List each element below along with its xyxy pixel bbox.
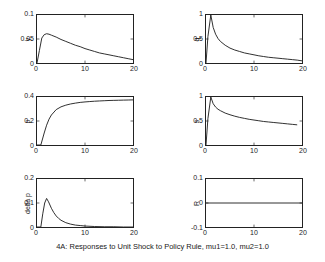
y-tick-label: 0 <box>199 199 203 206</box>
figure-caption: 4A: Responses to Unit Shock to Policy Ru… <box>0 242 325 252</box>
curve-p <box>37 97 133 145</box>
x-tick-label: 10 <box>81 147 89 155</box>
x-tick-label: 0 <box>34 147 38 155</box>
y-axis-ticks-p: 00.20.4 <box>4 96 34 146</box>
y-axis-ticks-s: 00.51 <box>173 96 203 146</box>
x-axis-ticks-R: 01020 <box>205 229 303 241</box>
y-tick-label: 1 <box>199 92 203 99</box>
plot-area-s <box>205 96 303 146</box>
x-tick-label: 10 <box>250 65 258 73</box>
x-tick-label: 10 <box>250 147 258 155</box>
y-axis-ticks-q: 00.51 <box>173 14 203 64</box>
x-tick-label: 10 <box>81 229 89 237</box>
figure-impulse-responses: y00.050.101020q00.5101020p00.20.401020s0… <box>0 0 325 262</box>
x-tick-label: 10 <box>81 65 89 73</box>
y-tick-label: 0.2 <box>24 174 34 181</box>
y-tick-label: 0.5 <box>193 117 203 124</box>
y-tick-label: 0.4 <box>24 92 34 99</box>
y-tick-label: 0.2 <box>24 117 34 124</box>
x-tick-label: 20 <box>299 147 307 155</box>
panel-R: R-0.100.101020 <box>168 170 325 246</box>
y-tick-label: 0.5 <box>193 35 203 42</box>
x-axis-ticks-y: 01020 <box>36 65 134 77</box>
panel-p: p00.20.401020 <box>4 88 164 164</box>
curve-y <box>37 15 133 63</box>
x-tick-label: 20 <box>130 229 138 237</box>
panel-q: q00.5101020 <box>168 6 325 82</box>
x-tick-label: 20 <box>130 147 138 155</box>
data-line <box>37 34 133 63</box>
data-line <box>37 198 133 227</box>
curve-q <box>206 15 302 63</box>
x-tick-label: 10 <box>250 229 258 237</box>
plot-area-R <box>205 178 303 228</box>
panel-delta_p: delta p00.10.201020 <box>4 170 164 246</box>
plot-area-p <box>36 96 134 146</box>
y-tick-label: 0.1 <box>24 10 34 17</box>
x-tick-label: 0 <box>203 65 207 73</box>
curve-delta_p <box>37 179 133 227</box>
y-axis-ticks-R: -0.100.1 <box>173 178 203 228</box>
y-axis-ticks-delta_p: 00.10.2 <box>4 178 34 228</box>
plot-area-q <box>205 14 303 64</box>
x-tick-label: 0 <box>203 147 207 155</box>
y-tick-label: 0.05 <box>20 35 34 42</box>
x-tick-label: 20 <box>299 65 307 73</box>
data-line <box>37 100 133 145</box>
curve-R <box>206 179 302 227</box>
plot-area-delta_p <box>36 178 134 228</box>
plot-area-y <box>36 14 134 64</box>
y-tick-label: -0.1 <box>191 224 203 231</box>
x-axis-ticks-delta_p: 01020 <box>36 229 134 241</box>
y-tick-label: 0.1 <box>193 174 203 181</box>
x-tick-label: 0 <box>203 229 207 237</box>
x-axis-ticks-s: 01020 <box>205 147 303 159</box>
y-tick-label: 1 <box>199 10 203 17</box>
panel-y: y00.050.101020 <box>4 6 164 82</box>
curve-s <box>206 97 302 145</box>
x-tick-label: 0 <box>34 65 38 73</box>
data-line <box>206 97 297 145</box>
x-tick-label: 20 <box>299 229 307 237</box>
x-tick-label: 0 <box>34 229 38 237</box>
y-tick-label: 0.1 <box>24 199 34 206</box>
x-axis-ticks-p: 01020 <box>36 147 134 159</box>
panel-s: s00.5101020 <box>168 88 325 164</box>
x-axis-ticks-q: 01020 <box>205 65 303 77</box>
y-axis-ticks-y: 00.050.1 <box>4 14 34 64</box>
x-tick-label: 20 <box>130 65 138 73</box>
data-line <box>206 15 302 63</box>
